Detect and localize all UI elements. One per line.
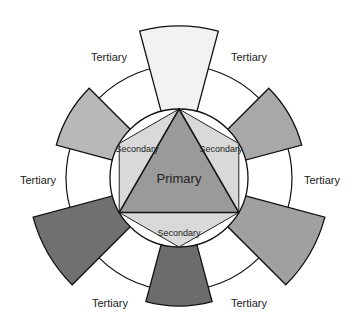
tertiary-segment-top — [140, 26, 219, 111]
secondary-label-left: Secondary — [115, 144, 159, 154]
tertiary-label-right: Tertiary — [304, 174, 341, 186]
tertiary-label-lower-left: Tertiary — [92, 297, 129, 309]
secondary-label-right: Secondary — [199, 144, 243, 154]
tertiary-label-left: Tertiary — [20, 174, 57, 186]
tertiary-label-upper-left: Tertiary — [91, 51, 128, 63]
tertiary-label-lower-right: Tertiary — [231, 297, 268, 309]
tertiary-segment-bottom — [146, 245, 212, 306]
primary-label: Primary — [157, 171, 202, 186]
secondary-label-bottom: Secondary — [157, 228, 201, 238]
tertiary-label-upper-right: Tertiary — [231, 51, 268, 63]
color-wheel-diagram: Primary Secondary Secondary Secondary Te… — [0, 0, 356, 332]
